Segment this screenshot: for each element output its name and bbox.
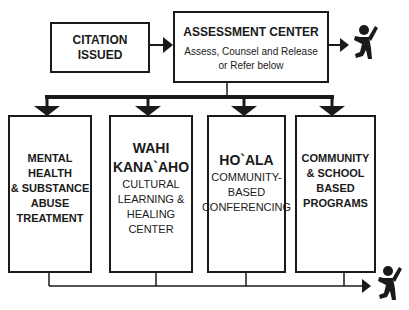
program-label: MENTAL HEALTH	[10, 151, 90, 181]
program-subtitle: CONFERENCING	[202, 200, 291, 215]
child-jumping-icon	[375, 265, 405, 305]
citation-label-line1: CITATION	[73, 33, 128, 48]
program-subtitle: HEALING	[127, 207, 175, 222]
program-subtitle: COMMUNITY-	[211, 170, 281, 185]
assessment-subtitle-line2: or Refer below	[218, 59, 283, 73]
program-label: & SCHOOL	[306, 166, 364, 181]
assessment-center-box: ASSESSMENT CENTER Assess, Counsel and Re…	[173, 11, 329, 83]
citation-label-line2: ISSUED	[78, 48, 123, 63]
program-label: TREATMENT	[16, 211, 83, 226]
community-school-program-box: COMMUNITY & SCHOOL BASED PROGRAMS	[295, 115, 376, 273]
child-jumping-icon	[351, 24, 381, 64]
program-subtitle: BASED	[228, 185, 265, 200]
program-title: HO`ALA	[219, 151, 273, 170]
program-title: WAHI	[133, 139, 170, 158]
program-label: ABUSE	[31, 196, 70, 211]
program-label: COMMUNITY	[302, 151, 370, 166]
program-label: & SUBSTANCE	[11, 181, 90, 196]
program-subtitle: LEARNING &	[118, 192, 185, 207]
citation-issued-box: CITATION ISSUED	[50, 22, 150, 73]
program-label: PROGRAMS	[303, 196, 368, 211]
assessment-subtitle-line1: Assess, Counsel and Release	[184, 45, 317, 59]
assessment-title: ASSESSMENT CENTER	[183, 25, 318, 40]
hoala-program-box: HO`ALA COMMUNITY- BASED CONFERENCING	[207, 115, 286, 273]
program-subtitle: CENTER	[128, 222, 173, 237]
mental-health-program-box: MENTAL HEALTH & SUBSTANCE ABUSE TREATMEN…	[8, 115, 92, 273]
wahi-kanaaho-program-box: WAHI KANA`AHO CULTURAL LEARNING & HEALIN…	[109, 115, 193, 273]
program-subtitle: CULTURAL	[122, 177, 179, 192]
program-label: BASED	[316, 181, 355, 196]
program-title: KANA`AHO	[113, 158, 189, 177]
